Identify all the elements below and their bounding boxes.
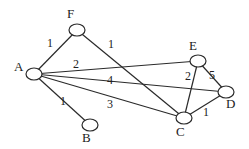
node-c xyxy=(176,112,192,124)
edge-weight-c-d: 1 xyxy=(203,105,209,119)
edge-weight-e-d: 5 xyxy=(209,68,215,82)
edge-weight-f-c: 1 xyxy=(108,37,114,51)
node-label-b: B xyxy=(82,130,91,145)
edge-weight-a-b: 1 xyxy=(60,94,66,108)
weighted-graph-diagram: 112431251AFEDCB xyxy=(0,0,249,149)
edges-layer xyxy=(34,30,226,125)
edge-a-f xyxy=(34,30,77,74)
node-e xyxy=(190,55,206,67)
node-label-a: A xyxy=(14,59,24,74)
edge-weight-e-c: 2 xyxy=(185,69,191,83)
node-label-d: D xyxy=(226,96,235,111)
node-a xyxy=(26,68,42,80)
edge-weight-a-d: 4 xyxy=(107,73,113,87)
edge-a-e xyxy=(34,61,198,74)
node-f xyxy=(69,24,85,36)
node-label-e: E xyxy=(189,38,197,53)
edge-weight-a-f: 1 xyxy=(47,36,53,50)
edge-weight-a-c: 3 xyxy=(107,97,113,111)
edge-f-c xyxy=(77,30,184,118)
edge-weight-a-e: 2 xyxy=(73,57,79,71)
node-label-c: C xyxy=(176,124,185,139)
node-label-f: F xyxy=(67,6,74,21)
